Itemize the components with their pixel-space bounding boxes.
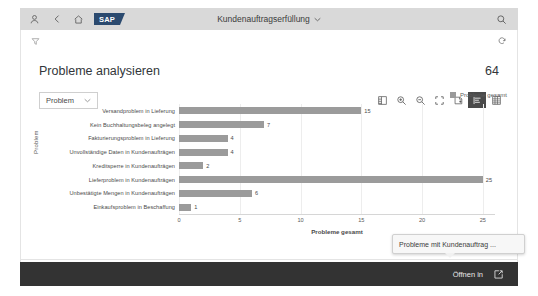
chart-tooltip-arrow [445,253,455,258]
bar[interactable] [179,121,264,128]
x-axis-tick: 15 [358,217,364,223]
bar-value-label: 1 [194,204,197,210]
filter-icon[interactable] [31,37,40,46]
shell-title-text: Kundenauftragserfüllung [217,14,310,24]
chart-legend: Probleme gesamt [450,92,507,98]
page-title-row: Probleme analysieren 64 [21,52,517,78]
bar[interactable] [179,190,252,197]
bar-row: 4 [179,145,495,159]
category-label[interactable]: Lieferproblem in Kundenaufträgen [49,173,179,187]
bottom-action-bar: Öffnen in [20,262,518,286]
bar-value-label: 4 [231,149,234,155]
x-axis-tick: 10 [297,217,303,223]
x-axis-tick: 20 [419,217,425,223]
x-axis: 0510152025 [179,214,495,226]
category-label[interactable]: Einkaufsproblem in Beschaffung [49,200,179,214]
bar[interactable] [179,162,203,169]
bar-rows: 1574422561 [179,104,495,214]
chevron-down-icon [84,97,91,104]
bars-container: 1574422561 [179,104,495,214]
x-axis-tick: 25 [480,217,486,223]
bar[interactable] [179,135,228,142]
bar[interactable] [179,149,228,156]
shell-bar: SAP Kundenauftragserfüllung [20,8,518,30]
x-axis-tick: 5 [238,217,241,223]
category-label[interactable]: Unvollständige Daten in Kundenaufträgen [49,145,179,159]
bar-value-label: 25 [486,177,492,183]
chart-area: Problem Versandproblem in LieferungKein … [31,104,509,254]
refresh-icon[interactable] [497,36,507,46]
page-count: 64 [485,64,499,78]
category-labels: Versandproblem in LieferungKein Buchhalt… [49,104,179,214]
category-label[interactable]: Kein Buchhaltungsbeleg angelegt [49,118,179,132]
bar-row: 7 [179,118,495,132]
app-root: SAP Kundenauftragserfüllung [0,0,538,296]
category-label[interactable]: Versandproblem in Lieferung [49,104,179,118]
open-in-label[interactable]: Öffnen in [453,270,483,279]
legend-swatch [450,92,456,98]
bar-row: 4 [179,132,495,146]
y-axis-title: Problem [33,130,39,154]
page-title: Probleme analysieren [39,64,160,78]
bar[interactable] [179,107,361,114]
page-container: Probleme analysieren 64 Problem [20,30,518,266]
shell-title-group[interactable]: Kundenauftragserfüllung [20,14,518,24]
legend-label[interactable]: Probleme gesamt [460,92,507,98]
bar-row: 15 [179,104,495,118]
chevron-down-icon [314,14,321,24]
chart-plot: Versandproblem in LieferungKein Buchhalt… [49,104,509,224]
bar[interactable] [179,176,483,183]
bar-value-label: 6 [255,190,258,196]
category-label[interactable]: Fakturierungsproblem in Lieferung [49,132,179,146]
bar-value-label: 15 [364,108,370,114]
divider [20,259,518,260]
page-subheader [21,30,517,52]
bar-value-label: 2 [206,163,209,169]
bar-row: 25 [179,173,495,187]
bar-row: 1 [179,200,495,214]
category-label[interactable]: Kreditsperre in Kundenaufträgen [49,159,179,173]
bar[interactable] [179,204,191,211]
x-axis-tick: 0 [177,217,180,223]
bar-value-label: 4 [231,135,234,141]
bar-row: 6 [179,187,495,201]
bar-value-label: 7 [267,122,270,128]
bar-row: 2 [179,159,495,173]
chart-tooltip-text: Probleme mit Kundenauftrag ... [399,241,496,248]
chart-tooltip[interactable]: Probleme mit Kundenauftrag ... [392,234,525,254]
open-external-icon[interactable] [493,269,504,280]
category-label[interactable]: Unbestätigte Mengen in Kundenaufträgen [49,187,179,201]
